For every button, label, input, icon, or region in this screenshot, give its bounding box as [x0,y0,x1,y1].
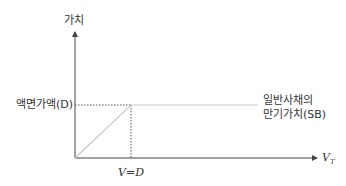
y-axis-label: 가치 [64,14,84,27]
x-axis-label-subscript: T [330,158,335,166]
bond-value-label-line2: 만기가치(SB) [263,108,326,121]
bond-payoff-line [75,105,258,158]
x-axis-label: VT [322,151,335,169]
payoff-diagram [0,0,346,186]
bond-value-label-line1: 일반사채의 [263,94,313,107]
x-axis-label-main: V [322,151,330,164]
x-tick-label: V=D [118,166,144,179]
face-value-label: 액면가액(D) [16,98,73,111]
